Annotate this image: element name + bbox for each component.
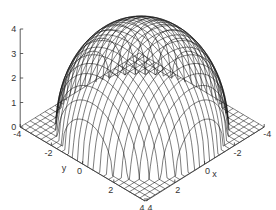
z-tick-label: 4 (11, 24, 16, 34)
mesh-line (93, 30, 212, 170)
y-tick-label: 2 (108, 185, 113, 195)
x-axis-label: x (212, 169, 217, 179)
mesh-line (36, 30, 155, 136)
y-tick-label: 4 (139, 203, 144, 210)
x-tick-label: -2 (233, 148, 241, 158)
x-tick-label: -4 (263, 129, 271, 139)
z-tick-label: 2 (11, 73, 16, 83)
y-tick-label: -2 (44, 148, 52, 158)
surface-plot: 01234-4-2024y-4-2024x (0, 0, 276, 210)
z-tick-label: 1 (11, 98, 16, 108)
y-tick-label: 0 (77, 166, 82, 176)
mesh-line (40, 74, 165, 189)
mesh-line (62, 16, 181, 152)
x-tick-label: 0 (205, 166, 210, 176)
x-tick-label: 2 (175, 185, 180, 195)
mesh-line (70, 30, 195, 170)
y-tick-label: -4 (13, 129, 21, 139)
hemisphere-mesh (20, 16, 264, 201)
z-tick-label: 3 (11, 49, 16, 59)
y-axis-label: y (62, 163, 67, 173)
x-axis (146, 127, 264, 201)
mesh-line (140, 119, 259, 198)
x-tick-label: 4 (147, 203, 152, 210)
plot-canvas: 01234-4-2024y-4-2024x (0, 0, 276, 210)
mesh-line (110, 18, 235, 146)
mesh-line (35, 86, 160, 192)
